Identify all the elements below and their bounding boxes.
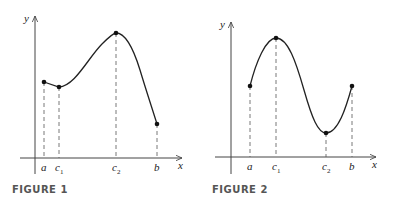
figure-2-caption: FIGURE 2 [212,184,268,195]
figure-1-caption: FIGURE 1 [12,184,68,195]
figure-1: y x a c 1 c 2 b [20,12,183,176]
figures-canvas: y x a c 1 c 2 b y x a c 1 c 2 b [0,0,393,202]
fig1-tick-b: b [154,161,160,173]
fig1-x-label: x [177,159,183,171]
figure-2: y x a c 1 c 2 b [215,18,377,175]
fig1-tick-a: a [41,161,47,173]
fig2-guides [250,38,352,157]
fig2-tick-c2-sub: 2 [327,167,331,175]
fig2-points [248,36,355,136]
fig2-curve [250,38,352,133]
fig1-y-label: y [23,12,29,24]
fig1-guides [44,33,157,158]
fig1-tick-c1-sub: 1 [60,168,64,176]
fig2-x-label: x [371,158,377,170]
fig1-curve [44,33,157,124]
fig2-y-label: y [219,18,225,30]
fig2-tick-a: a [247,160,253,172]
fig2-tick-c1-sub: 1 [277,167,281,175]
fig1-tick-c2-sub: 2 [117,168,121,176]
fig2-tick-b: b [349,160,355,172]
